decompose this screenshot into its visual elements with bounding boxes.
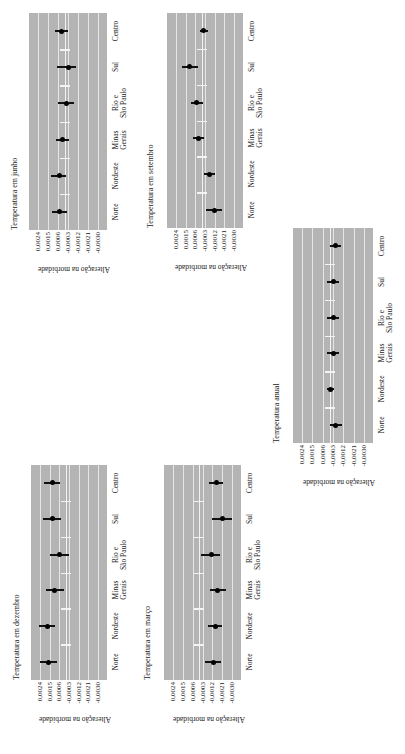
y-axis-label: Alteração na morbidade: [39, 715, 111, 724]
zero-tick-mark: [325, 371, 335, 373]
tick-label: 0,0006: [319, 445, 327, 473]
gridline: [38, 13, 39, 230]
category-label: Centro: [112, 11, 120, 51]
category-label: Sul: [378, 262, 386, 302]
gridline: [176, 13, 177, 228]
tick-label: -0,0012: [208, 682, 216, 710]
tick-label: 0,0024: [172, 230, 180, 258]
category-label: Nordeste: [112, 606, 120, 646]
category-label-line: Centro: [112, 463, 120, 503]
tick-label: -0,0030: [360, 445, 368, 473]
data-point: [57, 173, 62, 178]
gridline: [224, 13, 225, 228]
zero-tick-mark: [60, 122, 70, 124]
category-label: Nordeste: [246, 606, 254, 646]
tick-label: -0,0021: [350, 445, 358, 473]
zero-tick-mark: [194, 501, 204, 503]
gridline: [98, 13, 99, 230]
data-point: [333, 423, 338, 428]
category-label-line: Nordeste: [248, 154, 256, 194]
category-label-line: Nordeste: [112, 606, 120, 646]
data-point: [213, 624, 218, 629]
category-label-line: São Paulo: [120, 535, 128, 575]
category-label: Norte: [246, 642, 254, 682]
tick-label: -0,0021: [218, 682, 226, 710]
tick-label: 0,0015: [46, 682, 54, 710]
data-point: [66, 65, 71, 70]
tick-label: -0,0012: [75, 682, 83, 710]
data-point: [333, 243, 338, 248]
gridline: [186, 13, 187, 228]
data-point: [331, 315, 336, 320]
category-label: Centro: [112, 463, 120, 503]
tick-label: 0,0006: [55, 682, 63, 710]
data-point: [60, 137, 65, 142]
data-point: [57, 209, 62, 214]
data-point: [220, 516, 225, 521]
data-point: [211, 660, 216, 665]
zero-tick-mark: [197, 85, 207, 87]
tick-label: -0,0030: [94, 682, 102, 710]
data-point: [59, 29, 64, 34]
category-label: Norte: [112, 192, 120, 232]
chart-title: Temperatura em março: [143, 606, 152, 680]
category-label: Rio eSão Paulo: [112, 535, 128, 575]
gridline: [173, 465, 174, 680]
y-axis-label: Alteração na morbidade: [172, 715, 244, 724]
category-label-line: Norte: [112, 642, 120, 682]
category-label: Rio eSão Paulo: [378, 298, 394, 338]
zero-tick-mark: [60, 85, 70, 87]
category-label: Rio eSão Paulo: [112, 83, 128, 123]
category-label: MinasGerais: [112, 120, 128, 160]
category-label-line: Sul: [378, 262, 386, 302]
category-label-line: Gerais: [386, 333, 394, 373]
tick-label: -0,0012: [339, 445, 347, 473]
data-point: [50, 516, 55, 521]
category-label-line: Nordeste: [246, 606, 254, 646]
gridline: [323, 228, 324, 443]
category-label-line: São Paulo: [386, 298, 394, 338]
category-label: Sul: [246, 499, 254, 539]
tick-label: -0,0012: [74, 232, 82, 260]
category-label-line: Gerais: [120, 570, 128, 610]
data-point: [45, 624, 50, 629]
category-label-line: Gerais: [256, 118, 264, 158]
gridline: [88, 465, 89, 680]
tick-label: -0,0021: [220, 230, 228, 258]
data-point: [46, 660, 51, 665]
gridline: [232, 465, 233, 680]
data-point: [194, 100, 199, 105]
tick-label: -0,0030: [230, 230, 238, 258]
data-point: [215, 588, 220, 593]
tick-label: 0,0006: [189, 682, 197, 710]
zero-tick-mark: [194, 573, 204, 575]
category-label-line: Gerais: [120, 120, 128, 160]
zero-tick-mark: [61, 608, 71, 610]
category-label: Sul: [248, 47, 256, 87]
category-label: Norte: [248, 190, 256, 230]
gridline: [40, 465, 41, 680]
data-point: [331, 279, 336, 284]
gridline: [312, 228, 313, 443]
data-point: [207, 172, 212, 177]
category-label-line: Centro: [112, 11, 120, 51]
category-label: Centro: [378, 226, 386, 266]
gridline: [183, 465, 184, 680]
category-label-line: Nordeste: [378, 369, 386, 409]
tick-label: 0,0024: [298, 445, 306, 473]
category-label: Norte: [378, 405, 386, 445]
category-label: Nordeste: [378, 369, 386, 409]
y-axis-label: Alteração na morbidade: [175, 263, 247, 272]
zero-tick-mark: [194, 644, 204, 646]
zero-tick-mark: [325, 407, 335, 409]
zero-tick-mark: [60, 49, 70, 51]
plot-area: [167, 13, 243, 228]
category-label-line: Sul: [112, 47, 120, 87]
category-label: Sul: [112, 47, 120, 87]
category-label-line: Centro: [378, 226, 386, 266]
gridline: [88, 13, 89, 230]
plot-area: [29, 13, 107, 230]
zero-tick-mark: [325, 336, 335, 338]
zero-tick-mark: [61, 644, 71, 646]
category-label: Rio eSão Paulo: [246, 535, 262, 575]
